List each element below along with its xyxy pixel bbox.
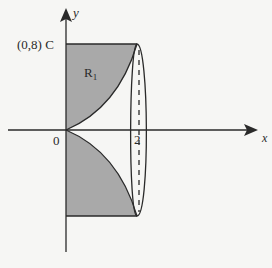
region-r1-shaded <box>66 44 137 130</box>
region-r1-main: R <box>84 65 93 80</box>
region-lower-shaded <box>66 130 137 216</box>
region-r1-label: R1 <box>84 66 97 82</box>
x-tick-label: 2 <box>134 133 141 146</box>
y-axis-label: y <box>73 6 79 19</box>
origin-label: 0 <box>53 134 60 147</box>
region-r1-subscript: 1 <box>93 72 98 82</box>
x-axis-label: x <box>262 132 267 144</box>
point-c-label: (0,8) C <box>17 38 54 51</box>
